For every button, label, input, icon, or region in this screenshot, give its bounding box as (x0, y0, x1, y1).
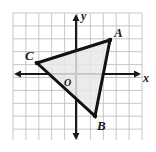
origin-label: O (64, 78, 71, 88)
x-axis-arrow-right-icon (134, 71, 141, 78)
vertex-dot-a (108, 38, 112, 42)
vertex-dot-c (35, 61, 39, 65)
y-axis-arrow-down-icon (73, 133, 80, 140)
vertex-label-a: A (114, 26, 123, 39)
vertex-label-b: B (97, 119, 106, 132)
y-axis-label: y (81, 10, 86, 22)
coordinate-plane-figure: A B C x y O (0, 0, 156, 152)
vertex-label-c: C (25, 49, 34, 62)
x-axis-arrow-left-icon (14, 71, 21, 78)
coordinate-plane-svg (0, 0, 156, 152)
y-axis-arrow-up-icon (73, 14, 80, 21)
x-axis-label: x (143, 72, 149, 84)
